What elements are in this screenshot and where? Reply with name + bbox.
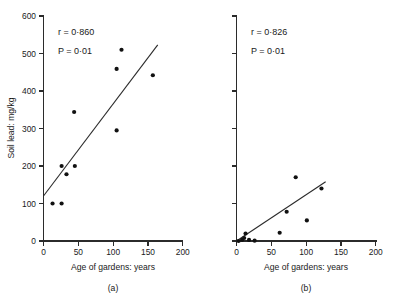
data-point [151, 73, 155, 77]
data-point [72, 110, 76, 114]
panel-b-x-tick-labels: 0 50 100 150 200 [234, 247, 383, 257]
panel-a-y-tick-labels: 600 500 400 300 200 100 0 [22, 11, 36, 246]
panel-b-y-ticks [232, 16, 237, 241]
panel-a-points [50, 48, 155, 206]
data-point [242, 236, 246, 240]
panel-a-x-ticks [44, 241, 183, 246]
panel-b-xtick-100: 100 [299, 247, 313, 257]
panel-a-caption: (a) [108, 283, 119, 293]
data-point [253, 239, 257, 243]
panel-b-xtick-150: 150 [334, 247, 348, 257]
panel-a-ytick-400: 400 [22, 86, 36, 96]
panel-b: 0 50 100 150 200 Age of gardens: years (… [232, 16, 383, 293]
data-point [247, 238, 251, 242]
panel-a: 600 500 400 300 200 100 0 0 50 100 150 [6, 11, 190, 293]
panel-b-x-ticks [237, 241, 376, 246]
data-point [115, 67, 119, 71]
panel-a-y-axis-title: Soil lead: mg/kg [6, 97, 16, 158]
panel-a-correlation-annotation: r = 0·860 [58, 27, 94, 37]
panel-a-xtick-50: 50 [74, 247, 84, 257]
two-panel-scatter-figure: 600 500 400 300 200 100 0 0 50 100 150 [0, 0, 402, 300]
panel-b-x-axis-title: Age of gardens: years [264, 262, 348, 272]
panel-b-correlation-annotation: r = 0·826 [251, 27, 287, 37]
panel-a-ytick-200: 200 [22, 161, 36, 171]
panel-a-pvalue-annotation: P = 0·01 [58, 46, 92, 56]
data-point [294, 175, 298, 179]
panel-a-ytick-300: 300 [22, 124, 36, 134]
data-point [50, 201, 54, 205]
data-point [60, 164, 64, 168]
panel-a-x-axis-title: Age of gardens: years [71, 262, 155, 272]
panel-b-caption: (b) [301, 283, 312, 293]
data-point [305, 218, 309, 222]
data-point [285, 210, 289, 214]
panel-a-ytick-500: 500 [22, 49, 36, 59]
data-point [64, 172, 68, 176]
panel-b-xtick-200: 200 [369, 247, 383, 257]
panel-a-ytick-0: 0 [31, 236, 36, 246]
figure-container: 600 500 400 300 200 100 0 0 50 100 150 [0, 0, 402, 300]
data-point [243, 231, 247, 235]
data-point [73, 164, 77, 168]
panel-b-xtick-0: 0 [234, 247, 239, 257]
panel-a-xtick-0: 0 [41, 247, 46, 257]
panel-b-pvalue-annotation: P = 0·01 [251, 46, 285, 56]
panel-a-x-tick-labels: 0 50 100 150 200 [41, 247, 190, 257]
data-point [119, 48, 123, 52]
data-point [115, 128, 119, 132]
panel-a-xtick-100: 100 [106, 247, 120, 257]
panel-a-ytick-600: 600 [22, 11, 36, 21]
panel-a-ytick-100: 100 [22, 199, 36, 209]
panel-a-xtick-200: 200 [176, 247, 190, 257]
data-point [319, 186, 323, 190]
panel-b-xtick-50: 50 [267, 247, 277, 257]
data-point [278, 231, 282, 235]
data-point [60, 201, 64, 205]
panel-a-regression-line [44, 45, 158, 196]
panel-a-xtick-150: 150 [141, 247, 155, 257]
panel-a-y-ticks [39, 16, 44, 241]
